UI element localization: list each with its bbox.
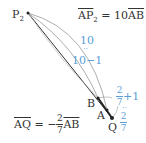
point-p2: [27, 12, 30, 15]
annotation-frac-plus-1: 27+1: [116, 86, 139, 107]
label-b: B: [87, 98, 95, 109]
point-b: [97, 97, 100, 100]
annotation-10-minus-1: 10−1: [72, 55, 102, 66]
arc-ab: [98, 97, 112, 98]
label-q: Q: [108, 122, 117, 133]
equation-aq: AQ = −27AB: [14, 114, 79, 135]
label-a: A: [97, 110, 105, 121]
point-a: [106, 109, 109, 112]
equation-ap2: AP2 = 10AB: [78, 10, 144, 24]
label-p2: P2: [12, 9, 24, 23]
annotation-colon1: ··: [83, 45, 88, 53]
arc-aq: [112, 106, 118, 118]
annotation-frac2: 27: [120, 112, 127, 133]
vector-diagram: P2 B A Q AP2 = 10AB AQ = −27AB 10 ·· 10−…: [0, 0, 146, 143]
point-q: [110, 116, 114, 120]
